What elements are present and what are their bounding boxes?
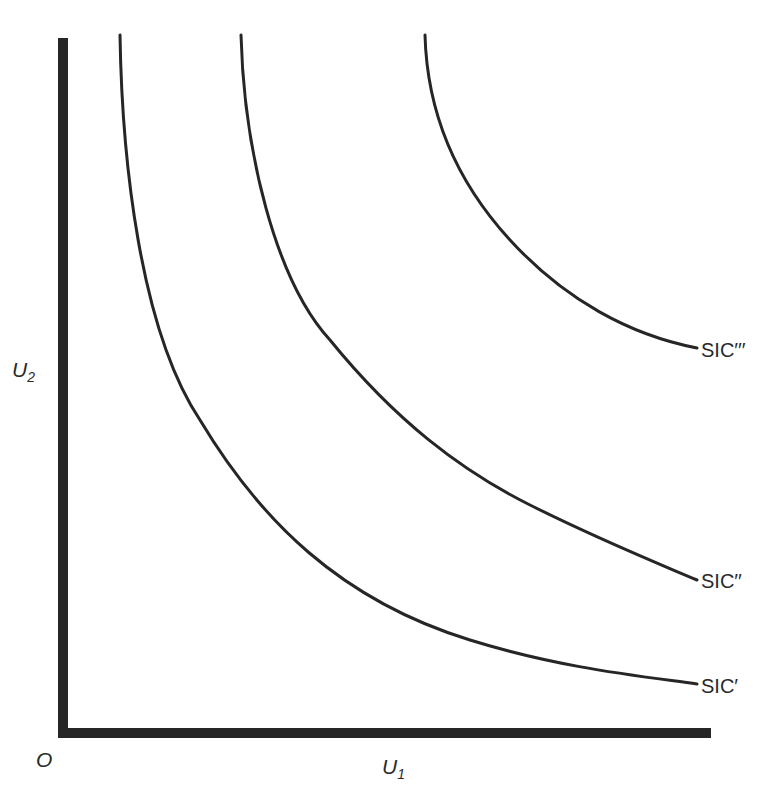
y-axis-label: U2 — [12, 358, 35, 385]
curve-sic-2 — [241, 35, 697, 580]
curve-label-sic-3: SIC′′′ — [701, 339, 746, 362]
y-axis-label-main: U — [12, 358, 27, 381]
x-axis — [58, 728, 711, 738]
y-axis-label-subscript: 2 — [27, 369, 35, 385]
origin-label: O — [36, 748, 52, 772]
x-axis-label-subscript: 1 — [397, 766, 405, 782]
curve-sic-3 — [425, 35, 697, 348]
x-axis-label: U1 — [382, 755, 405, 782]
curve-label-sic-2: SIC′′ — [701, 570, 742, 593]
curve-label-sic-1: SIC′ — [701, 675, 738, 698]
y-axis — [58, 38, 68, 738]
indifference-diagram — [0, 0, 772, 789]
curve-sic-1 — [120, 35, 697, 684]
x-axis-label-main: U — [382, 755, 397, 778]
